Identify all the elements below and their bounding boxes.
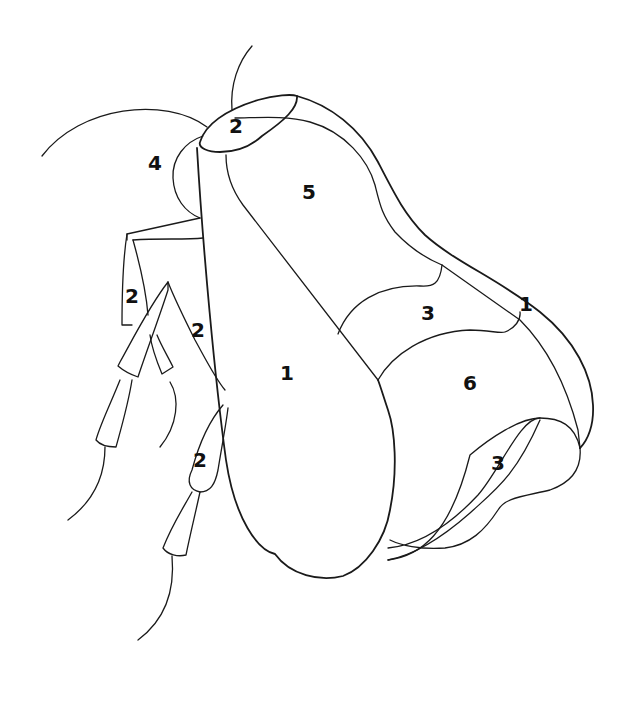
- left-appendage-upper: [122, 234, 148, 325]
- label-head-cap: 2: [229, 116, 243, 136]
- label-lower-segment: 6: [463, 373, 477, 393]
- label-middle-appendage: 2: [191, 320, 205, 340]
- neck-plate: [127, 218, 203, 240]
- lower-boundary-curve: [388, 420, 540, 560]
- label-lower-lobe: 3: [491, 453, 505, 473]
- label-middle-band: 3: [421, 303, 435, 323]
- middle-leg: [150, 282, 225, 390]
- label-left-appendage-upper: 2: [125, 286, 139, 306]
- label-eye-region: 4: [148, 153, 162, 173]
- outer-shell: [297, 96, 593, 448]
- body-outline-drawing: [0, 0, 622, 727]
- label-main-body: 1: [280, 363, 294, 383]
- label-upper-back: 5: [302, 182, 316, 202]
- region-6-upper-boundary: [378, 312, 520, 380]
- left-leg-lower: [96, 380, 132, 447]
- lower-lobe-outline: [388, 418, 580, 548]
- lower-appendage-antenna: [138, 556, 173, 640]
- middle-leg-antenna: [160, 382, 176, 447]
- region-5-boundary: [235, 117, 580, 448]
- label-outer-rim: 1: [519, 294, 533, 314]
- label-lower-appendage: 2: [193, 450, 207, 470]
- top-antenna: [232, 46, 252, 110]
- head-cap-outline: [200, 95, 297, 152]
- left-leg-antenna: [68, 447, 105, 520]
- lower-appendage-tip: [163, 492, 200, 556]
